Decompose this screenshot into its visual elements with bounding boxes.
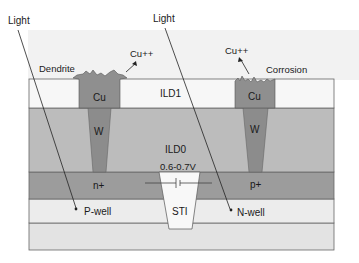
label-sti: STI — [172, 206, 188, 217]
label-cu-ion-left: Cu++ — [130, 48, 154, 59]
label-p-well: P-well — [84, 206, 111, 217]
label-light-left: Light — [8, 15, 30, 26]
label-n-well: N-well — [237, 207, 265, 218]
cross-section-diagram: Light Light Dendrite Cu++ Cu++ Corrosion… — [0, 0, 359, 263]
label-ild0: ILD0 — [165, 144, 187, 155]
label-cu-ion-right: Cu++ — [225, 45, 249, 56]
label-p-plus: p+ — [250, 179, 262, 190]
label-dendrite: Dendrite — [39, 63, 75, 74]
background-haze — [28, 30, 359, 80]
label-w-right: W — [250, 124, 260, 135]
label-cu-left: Cu — [93, 92, 106, 103]
ild1-layer — [29, 79, 334, 108]
label-cu-right: Cu — [248, 91, 261, 102]
label-voltage: 0.6-0.7V — [160, 161, 197, 172]
label-n-plus: n+ — [93, 180, 105, 191]
label-light-right: Light — [153, 13, 175, 24]
label-corrosion: Corrosion — [266, 64, 307, 75]
label-w-left: W — [94, 126, 104, 137]
label-ild1: ILD1 — [160, 88, 182, 99]
